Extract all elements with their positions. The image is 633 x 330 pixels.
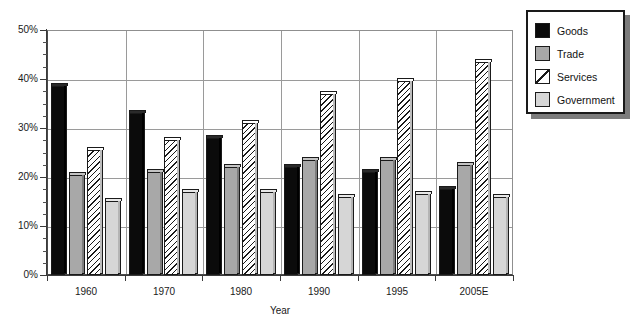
bar-top-face <box>164 137 181 140</box>
bar-top-face <box>129 110 146 113</box>
bar-services-1995 <box>397 81 411 275</box>
y-axis-tick-minor <box>43 214 47 215</box>
legend-item-goods[interactable]: Goods <box>535 19 617 42</box>
bar-government-1995 <box>415 194 429 275</box>
gridline-vertical <box>281 31 282 274</box>
bar-side-face <box>142 111 145 274</box>
y-axis-tick-minor <box>43 42 47 43</box>
bar-top-face <box>493 194 510 197</box>
x-axis-tick <box>125 275 126 281</box>
bar-side-face <box>351 195 354 274</box>
bar-top-face <box>362 169 379 172</box>
legend-label-services: Services <box>557 71 597 83</box>
bar-side-face <box>470 163 473 274</box>
y-axis-tick-major <box>40 226 47 227</box>
y-axis-tick-minor <box>43 263 47 264</box>
bar-side-face <box>237 165 240 274</box>
bar-top-face <box>457 162 474 165</box>
bar-side-face <box>219 136 222 274</box>
bar-side-face <box>297 165 300 274</box>
y-axis-tick-minor <box>43 165 47 166</box>
y-axis-tick-major <box>40 79 47 80</box>
x-axis-tick <box>47 275 48 281</box>
gridline-horizontal <box>48 80 512 81</box>
bar-top-face <box>475 59 492 62</box>
y-axis-tick-minor <box>43 116 47 117</box>
x-axis-label-1990: 1990 <box>280 286 358 297</box>
y-axis-tick-major <box>40 128 47 129</box>
chart-screenshot: 0%10%20%30%40%50% 1960197019801990199520… <box>0 0 633 330</box>
x-axis-label-1980: 1980 <box>202 286 280 297</box>
bar-side-face <box>488 60 491 274</box>
bar-goods-1980 <box>206 138 220 275</box>
bar-government-2005E <box>493 197 507 275</box>
legend-item-government[interactable]: Government <box>535 88 617 111</box>
x-axis-title: Year <box>0 305 560 316</box>
bar-side-face <box>273 190 276 274</box>
bar-trade-2005E <box>457 165 471 275</box>
x-axis-label-1995: 1995 <box>358 286 436 297</box>
bar-side-face <box>64 84 67 274</box>
y-axis-label: 20% <box>4 172 38 182</box>
bar-top-face <box>338 194 355 197</box>
y-axis-tick-major <box>40 30 47 31</box>
bar-side-face <box>452 187 455 274</box>
bar-side-face <box>100 148 103 274</box>
bar-services-1960 <box>87 150 101 275</box>
bar-top-face <box>182 189 199 192</box>
bar-top-face <box>87 147 104 150</box>
bar-side-face <box>393 158 396 274</box>
bar-side-face <box>506 195 509 274</box>
x-axis-label-1970: 1970 <box>125 286 203 297</box>
bar-top-face <box>242 120 259 123</box>
y-axis-label: 0% <box>4 270 38 280</box>
bar-goods-1970 <box>129 113 143 275</box>
bar-side-face <box>375 170 378 274</box>
bar-side-face <box>410 79 413 274</box>
gridline-vertical <box>126 31 127 274</box>
bar-top-face <box>260 189 277 192</box>
x-axis-tick <box>280 275 281 281</box>
bar-top-face <box>147 169 164 172</box>
legend-label-trade: Trade <box>557 48 584 60</box>
bar-trade-1995 <box>380 160 394 275</box>
bar-top-face <box>380 157 397 160</box>
x-axis-tick <box>435 275 436 281</box>
bar-side-face <box>333 92 336 274</box>
bar-top-face <box>105 198 122 201</box>
bar-trade-1980 <box>224 167 238 275</box>
bar-top-face <box>320 91 337 94</box>
bar-top-face <box>439 186 456 189</box>
gridline-vertical <box>436 31 437 274</box>
y-axis-tick-minor <box>43 153 47 154</box>
bar-side-face <box>177 138 180 274</box>
legend-item-trade[interactable]: Trade <box>535 42 617 65</box>
y-axis-tick-minor <box>43 238 47 239</box>
y-axis-tick-minor <box>43 202 47 203</box>
bar-top-face <box>69 172 86 175</box>
y-axis-tick-major <box>40 177 47 178</box>
y-axis-tick-minor <box>43 54 47 55</box>
y-axis-label: 50% <box>4 25 38 35</box>
y-axis-tick-major <box>40 275 47 276</box>
bar-trade-1970 <box>147 172 161 275</box>
bar-goods-2005E <box>439 189 453 275</box>
legend-label-government: Government <box>557 94 615 106</box>
y-axis-tick-minor <box>43 140 47 141</box>
y-axis-tick-minor <box>43 67 47 68</box>
bar-top-face <box>206 135 223 138</box>
y-axis-label: 30% <box>4 123 38 133</box>
y-axis-tick-minor <box>43 251 47 252</box>
x-axis-tick <box>513 275 514 281</box>
legend-item-services[interactable]: Services <box>535 65 617 88</box>
bar-side-face <box>255 121 258 274</box>
x-axis-label-2005E: 2005E <box>435 286 513 297</box>
bar-services-1990 <box>320 94 334 275</box>
bar-government-1980 <box>260 192 274 275</box>
bar-side-face <box>160 170 163 274</box>
gridline-horizontal <box>48 129 512 130</box>
bar-government-1960 <box>105 201 119 275</box>
y-axis-tick-minor <box>43 189 47 190</box>
bar-government-1970 <box>182 192 196 275</box>
bar-top-face <box>284 164 301 167</box>
